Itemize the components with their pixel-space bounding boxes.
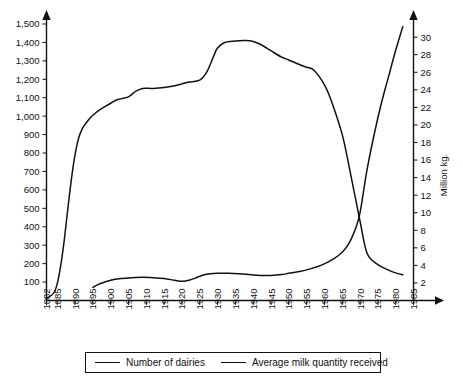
ticks-group	[43, 24, 418, 305]
x-tick-label: 1945	[266, 288, 277, 309]
x-tick-label: 1980	[390, 288, 401, 309]
right-y-axis-arrow	[409, 10, 417, 20]
x-tick-label: 1920	[176, 288, 187, 309]
chart-plot-area: 1002003004005006007008009001,0001,1001,2…	[0, 0, 463, 381]
left-y-tick-label: 800	[24, 147, 40, 158]
left-y-tick-label: 1,200	[16, 74, 40, 85]
right-y-tick-label: 26	[421, 67, 432, 78]
legend-label-average-milk-quantity-received: Average milk quantity received	[252, 357, 388, 368]
right-y-tick-label: 4	[421, 260, 426, 271]
x-tick-label: 1895	[87, 288, 98, 309]
x-tick-label: 1955	[301, 288, 312, 309]
x-tick-label: 1925	[194, 288, 205, 309]
right-y-tick-label: 16	[421, 154, 432, 165]
axes-group	[42, 10, 444, 305]
right-y-tick-label: 10	[421, 207, 432, 218]
x-tick-label: 1940	[248, 288, 259, 309]
x-tick-label: 1970	[355, 288, 366, 309]
x-tick-label: 1890	[70, 288, 81, 309]
legend-swatch-number-of-dairies	[95, 362, 120, 363]
left-y-tick-label: 500	[24, 203, 40, 214]
series-group	[47, 27, 403, 299]
right-y-tick-label: 24	[421, 84, 432, 95]
right-y-tick-label: 22	[421, 102, 432, 113]
left-y-axis-arrow	[42, 10, 50, 20]
x-tick-label: 1985	[408, 288, 419, 309]
left-y-tick-label: 600	[24, 184, 40, 195]
left-y-tick-label: 300	[24, 240, 40, 251]
legend-swatch-average-milk-quantity-received	[221, 362, 246, 363]
right-y-tick-label: 12	[421, 190, 432, 201]
left-y-tick-label: 100	[24, 276, 40, 287]
right-y-tick-label: 2	[421, 277, 426, 288]
legend-item-number-of-dairies: Number of dairies	[86, 353, 205, 372]
left-y-tick-label: 200	[24, 258, 40, 269]
x-tick-label: 1885	[52, 288, 63, 309]
x-tick-label: 1975	[372, 288, 383, 309]
right-y-tick-label: 30	[421, 32, 432, 43]
right-y-axis-title: Million kg.	[438, 154, 449, 196]
left-y-tick-label: 1,100	[16, 92, 40, 103]
right-y-tick-label: 8	[421, 225, 426, 236]
axis-labels-group: 1002003004005006007008009001,0001,1001,2…	[16, 18, 449, 309]
x-tick-label: 1900	[105, 288, 116, 309]
left-y-tick-label: 700	[24, 166, 40, 177]
x-tick-label: 1935	[230, 288, 241, 309]
right-y-tick-label: 6	[421, 242, 426, 253]
series-line-average-milk-quantity-received	[93, 27, 403, 288]
chart-legend: Number of dairies Average milk quantity …	[85, 352, 381, 373]
x-tick-label: 1915	[159, 288, 170, 309]
left-y-tick-label: 1,000	[16, 111, 40, 122]
x-tick-label: 1950	[283, 288, 294, 309]
left-y-tick-label: 400	[24, 221, 40, 232]
left-y-tick-label: 1,300	[16, 55, 40, 66]
series-line-number-of-dairies	[47, 41, 403, 299]
x-tick-label: 1930	[212, 288, 223, 309]
right-y-tick-label: 14	[421, 172, 432, 183]
legend-item-average-milk-quantity-received: Average milk quantity received	[205, 353, 388, 372]
left-y-tick-label: 1,400	[16, 37, 40, 48]
left-y-tick-label: 900	[24, 129, 40, 140]
x-tick-label: 1910	[141, 288, 152, 309]
x-tick-label: 1905	[123, 288, 134, 309]
x-axis-arrow	[435, 296, 444, 304]
right-y-tick-label: 20	[421, 119, 432, 130]
x-tick-label: 1882	[41, 288, 52, 309]
x-tick-label: 1960	[319, 288, 330, 309]
chart-container: 1002003004005006007008009001,0001,1001,2…	[0, 0, 463, 381]
legend-label-number-of-dairies: Number of dairies	[126, 357, 205, 368]
x-tick-label: 1965	[337, 288, 348, 309]
right-y-tick-label: 28	[421, 49, 432, 60]
right-y-tick-label: 18	[421, 137, 432, 148]
left-y-tick-label: 1,500	[16, 18, 40, 29]
